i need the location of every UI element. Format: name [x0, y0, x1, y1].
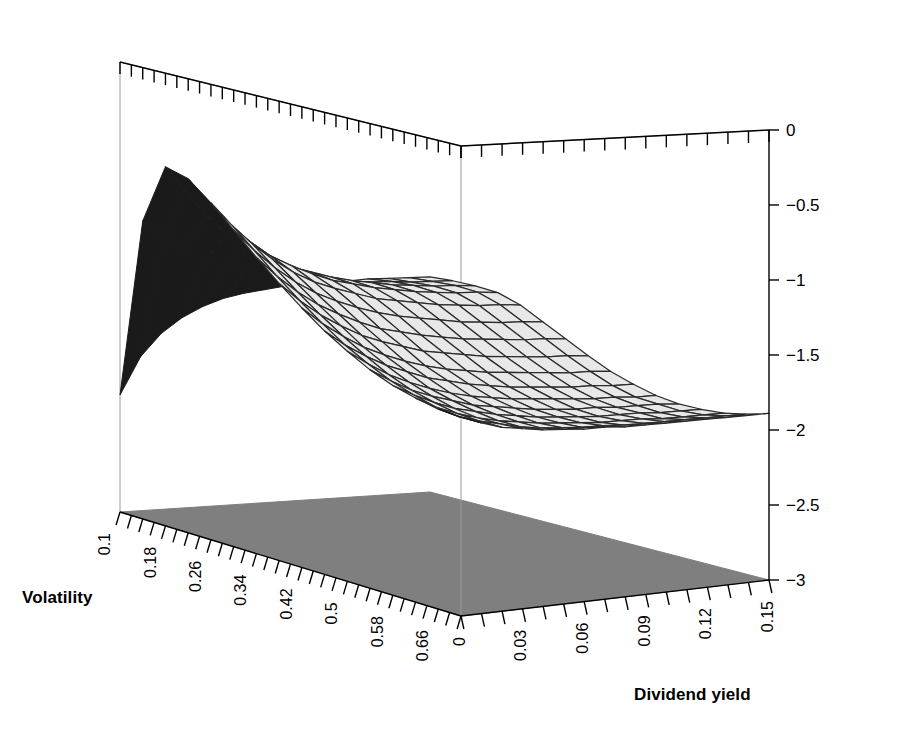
svg-text:0: 0: [786, 121, 795, 140]
svg-text:0.12: 0.12: [697, 608, 714, 639]
svg-text:0.42: 0.42: [278, 588, 295, 619]
surface-plot-canvas: 0.10.180.260.340.420.50.580.6600.030.060…: [0, 0, 903, 752]
svg-text:0.03: 0.03: [512, 630, 529, 661]
svg-text:0.34: 0.34: [233, 574, 250, 605]
svg-text:−1.5: −1.5: [786, 346, 820, 365]
floor-plane: [120, 492, 769, 616]
svg-text:0.1: 0.1: [96, 533, 113, 555]
svg-text:0.06: 0.06: [574, 622, 591, 653]
svg-text:−0.5: −0.5: [786, 196, 820, 215]
x-axis-title: Volatility: [22, 588, 93, 608]
svg-text:0.58: 0.58: [369, 616, 386, 647]
svg-text:−2: −2: [786, 421, 805, 440]
svg-text:0.26: 0.26: [187, 561, 204, 592]
svg-text:0.66: 0.66: [414, 630, 431, 661]
svg-text:−3: −3: [786, 571, 805, 590]
svg-text:−1: −1: [786, 271, 805, 290]
svg-text:0.5: 0.5: [323, 602, 340, 624]
surface-plot-figure: 0.10.180.260.340.420.50.580.6600.030.060…: [0, 0, 903, 752]
svg-text:0: 0: [451, 637, 468, 646]
y-axis-title: Dividend yield: [634, 685, 751, 705]
svg-text:0.09: 0.09: [636, 615, 653, 646]
svg-text:0.18: 0.18: [142, 547, 159, 578]
svg-text:−2.5: −2.5: [786, 496, 820, 515]
svg-text:0.15: 0.15: [759, 601, 776, 632]
wireframe-surface: [120, 167, 769, 430]
